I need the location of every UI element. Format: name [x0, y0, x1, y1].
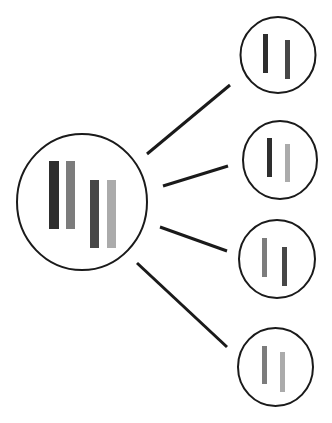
- cell-membrane: [239, 220, 315, 298]
- chromosome-3: [90, 180, 99, 248]
- gamete-4: [238, 328, 313, 406]
- gamete-1: [241, 17, 316, 93]
- chromosome-2: [285, 144, 290, 182]
- chromosome-2: [282, 247, 287, 286]
- gamete-3: [239, 220, 315, 298]
- meiosis-diagram: [0, 0, 332, 423]
- gamete-2: [243, 121, 317, 199]
- cell-membrane: [17, 134, 147, 270]
- chromosome-1: [262, 346, 267, 384]
- chromosome-1: [49, 161, 59, 229]
- chromosome-1: [263, 34, 268, 73]
- connector-line-1: [147, 85, 230, 154]
- cell-membrane: [238, 328, 313, 406]
- gamete-cells: [238, 17, 317, 406]
- connector-line-3: [160, 227, 227, 251]
- connector-lines: [137, 85, 230, 347]
- parent-cell: [17, 134, 147, 270]
- parent-cell-body: [17, 134, 147, 270]
- chromosome-1: [262, 238, 267, 277]
- chromosome-2: [280, 352, 285, 392]
- cell-membrane: [243, 121, 317, 199]
- chromosome-2: [66, 161, 75, 229]
- cell-membrane: [241, 17, 316, 93]
- connector-line-2: [163, 166, 228, 186]
- chromosome-2: [285, 40, 290, 79]
- chromosome-1: [267, 138, 272, 177]
- connector-line-4: [137, 263, 227, 347]
- chromosome-4: [107, 180, 116, 248]
